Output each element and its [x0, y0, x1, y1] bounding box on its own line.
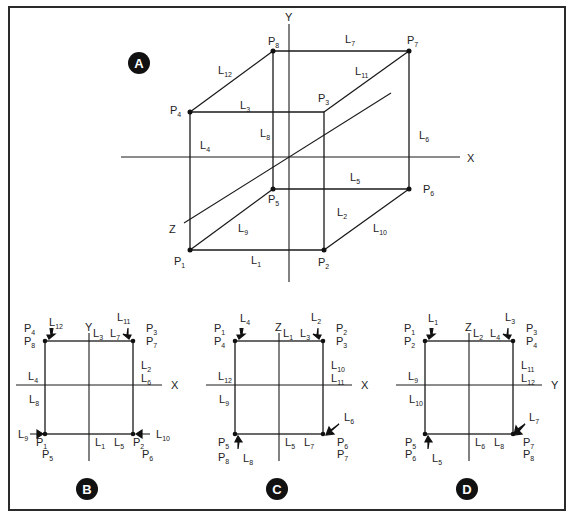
edge-label-bottom-1: L6 [475, 436, 485, 450]
label-p7: P7 [407, 34, 418, 48]
corner-label-bottom-right-2: P7 [337, 448, 348, 462]
axis-y-label: Y [285, 11, 293, 23]
vertex-top-right [131, 339, 136, 344]
vertex-p8 [271, 49, 276, 54]
edge-label-right-1: L11 [521, 359, 534, 373]
corner-label-top-left-2: P2 [404, 335, 415, 349]
corner-label-top-left-1: P1 [214, 322, 225, 336]
label-p2: P2 [318, 256, 329, 270]
corner-label-bottom-left-2: P8 [218, 451, 229, 465]
corner-label-top-right-2: P3 [336, 335, 347, 349]
svg-text:A: A [134, 56, 144, 71]
arrow-label-top-left: L1 [428, 312, 438, 326]
edge-label-bottom-2: L7 [304, 436, 314, 450]
panel-d-side-view: ZYP1P2P3P4L2L4L9L10L11L12L6L8DL1L3L5L7P5… [396, 311, 559, 500]
arrow-label-bottom-right: L7 [529, 411, 539, 425]
label-l1: L1 [251, 254, 261, 268]
arrow-label-bottom-left: L9 [18, 428, 28, 442]
label-p1: P1 [174, 255, 185, 269]
panel-a-badge: A [128, 52, 150, 74]
corner-label-bottom-right-2: P8 [523, 448, 534, 462]
label-p5: P5 [268, 193, 279, 207]
vertex-p7 [407, 49, 412, 54]
arrow-bottom-right [326, 424, 339, 435]
label-p6: P6 [423, 183, 434, 197]
edge-l10 [324, 189, 409, 250]
edge-label-bottom-1: L1 [95, 436, 105, 450]
label-p4: P4 [170, 104, 181, 118]
svg-text:C: C [272, 482, 282, 497]
arrow-top-right [123, 328, 131, 339]
svg-text:D: D [462, 482, 471, 497]
axis-z-label: Z [169, 223, 176, 235]
axis-x-label: X [467, 152, 475, 164]
edge-label-left-2: L10 [409, 393, 423, 407]
edge-l12 [190, 51, 273, 112]
edge-label-bottom-2: L8 [494, 436, 504, 450]
axis-vertical-label: Z [465, 321, 472, 333]
arrow-label-top-left: L4 [240, 312, 250, 326]
edge-label-right-1: L2 [141, 359, 151, 373]
label-l7: L7 [345, 33, 355, 47]
vertex-bottom-left [233, 432, 238, 437]
axis-horizontal-label: X [171, 379, 179, 391]
arrow-bottom-left [425, 436, 432, 449]
arrow-label-bottom-right: L6 [344, 411, 354, 425]
label-l10: L10 [373, 222, 387, 236]
label-l12: L12 [218, 64, 232, 78]
edge-label-left-1: L12 [218, 370, 232, 384]
edge-label-top-2: L3 [300, 327, 310, 341]
edge-label-top-2: L4 [490, 327, 500, 341]
corner-label-top-right-1: P2 [336, 322, 347, 336]
arrow-top-right [313, 328, 321, 339]
vertex-top-right [321, 339, 326, 344]
edge-label-bottom-2: L5 [114, 436, 124, 450]
edge-label-right-2: L12 [521, 372, 535, 386]
arrow-label-top-right: L3 [505, 311, 515, 325]
vertex-p2 [322, 248, 327, 253]
edge-label-left-2: L9 [219, 393, 229, 407]
axis-horizontal-label: Y [551, 379, 559, 391]
panel-b-front-view: YXP4P8P3P7L3L7L4L8L2L6L1L5BL12L11L9L10P1… [16, 311, 179, 500]
edge-label-top-1: L1 [283, 327, 293, 341]
vertex-bottom-right [321, 432, 326, 437]
axis-vertical-label: Z [275, 321, 282, 333]
arrow-label-top-left: L12 [49, 316, 63, 330]
panel-c-top-view: ZXP1P4P2P3L1L3L12L9L10L11L5L7CL4L2L8L6P5… [206, 311, 369, 500]
label-l5: L5 [350, 171, 360, 185]
arrow-bottom-right [514, 424, 525, 435]
arrow-bottom-left [235, 436, 242, 449]
edge-label-top-2: L7 [110, 327, 120, 341]
label-l8: L8 [260, 127, 270, 141]
vertex-top-left [233, 339, 238, 344]
corner-label-top-left-2: P8 [24, 335, 35, 349]
vertex-bottom-left [423, 432, 428, 437]
vertex-p4 [188, 110, 193, 115]
edge-label-right-2: L6 [141, 372, 151, 386]
label-l3: L3 [240, 99, 250, 113]
axis-vertical-label: Y [85, 321, 93, 333]
arrow-top-left [237, 328, 245, 339]
vertex-top-left [423, 339, 428, 344]
label-l6: L6 [419, 129, 429, 143]
panel-badge: B [76, 478, 98, 500]
corner-label-top-right-1: P3 [146, 322, 157, 336]
edge-label-right-2: L11 [331, 372, 344, 386]
vertex-top-right [511, 339, 516, 344]
panel-badge: C [266, 478, 288, 500]
corner-label-top-right-2: P4 [526, 335, 537, 349]
edge-label-left-1: L9 [408, 370, 418, 384]
cube-diagram: Y X Z P1 P2 [0, 0, 573, 516]
vertex-p1 [188, 248, 193, 253]
label-l4: L4 [200, 139, 210, 153]
panel-a-isometric-view: Y X Z P1 P2 [121, 11, 475, 282]
arrow-top-left [427, 328, 435, 339]
vertex-p5 [271, 187, 276, 192]
corner-label-top-left-1: P1 [404, 322, 415, 336]
arrow-label-bottom-left: L5 [432, 452, 442, 466]
vertex-top-left [43, 339, 48, 344]
label-p8: P8 [268, 35, 279, 49]
edge-l11 [324, 51, 409, 112]
label-p3: P3 [318, 92, 329, 106]
edge-label-left-1: L4 [28, 370, 38, 384]
